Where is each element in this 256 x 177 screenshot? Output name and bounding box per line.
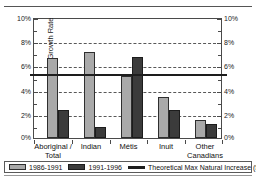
top-divider [4, 6, 252, 7]
ytick-right-6 [217, 67, 221, 68]
ytick-left-9 [34, 31, 37, 32]
ytick-left-6 [34, 67, 38, 68]
ytick-right-1 [218, 128, 221, 129]
ytick-left-10 [34, 19, 38, 20]
bottom-divider [4, 175, 252, 176]
bar-indian-1991-1996[interactable] [95, 127, 106, 139]
ytick-left-1 [34, 128, 37, 129]
bar-inuit-1991-1996[interactable] [169, 110, 180, 138]
bar-aboriginal-total-1986-1991[interactable] [47, 58, 58, 138]
bar-other-canadians-1991-1996[interactable] [206, 124, 217, 139]
bar-group-metis [121, 57, 143, 138]
plot-area: 10% 8% 6% 4% 2% 0% 10% 8% 6% 4% 2% 0% To… [33, 18, 222, 139]
ylabel-left-0: 0% [6, 134, 31, 141]
bar-metis-1991-1996[interactable] [132, 57, 143, 138]
ytick-left-4 [34, 92, 38, 93]
bar-group-indian [84, 52, 106, 138]
ylabel-right-6: 6% [224, 63, 249, 70]
ytick-left-7 [34, 55, 37, 56]
ytick-left-8 [34, 43, 38, 44]
chart-screenshot: 10% 8% 6% 4% 2% 0% 10% 8% 6% 4% 2% 0% To… [0, 0, 256, 177]
bar-indian-1986-1991[interactable] [84, 52, 95, 138]
gridline-8pct [34, 43, 221, 44]
ylabel-left-10: 10% [6, 15, 31, 22]
ylabel-left-8: 8% [6, 39, 31, 46]
category-label-aboriginal-total: Aboriginal / Total [32, 142, 74, 160]
ytick-right-5 [218, 80, 221, 81]
ytick-left-3 [34, 104, 37, 105]
ytick-right-8 [217, 43, 221, 44]
ytick-right-2 [217, 116, 221, 117]
legend-label-1986-1991: 1986-1991 [29, 164, 62, 171]
chart-legend: 1986-1991 1991-1996 Theoretical Max Natu… [4, 161, 252, 173]
ytick-right-7 [218, 55, 221, 56]
ylabel-right-8: 8% [224, 39, 249, 46]
ylabel-right-4: 4% [224, 88, 249, 95]
ytick-right-9 [218, 31, 221, 32]
ylabel-right-10: 10% [224, 15, 249, 22]
category-label-metis: Métis [108, 142, 150, 151]
legend-swatch-1986-1991 [9, 164, 26, 170]
threshold-line-natural-increase [30, 74, 227, 76]
ylabel-right-2: 2% [224, 112, 249, 119]
legend-label-1991-1996: 1991-1996 [88, 164, 121, 171]
ytick-right-3 [218, 104, 221, 105]
ytick-left-5 [34, 80, 37, 81]
ylabel-left-4: 4% [6, 88, 31, 95]
legend-swatch-1991-1996 [68, 164, 85, 170]
bar-group-inuit [158, 97, 180, 138]
ytick-left-2 [34, 116, 38, 117]
ylabel-left-2: 2% [6, 112, 31, 119]
ytick-right-4 [217, 92, 221, 93]
legend-swatch-threshold-line [128, 166, 145, 169]
bar-aboriginal-total-1991-1996[interactable] [58, 110, 69, 138]
bar-metis-1986-1991[interactable] [121, 76, 132, 138]
legend-label-threshold: Theoretical Max Natural Increase (5.5%) [148, 164, 256, 171]
category-label-indian: Indian [70, 142, 112, 151]
ylabel-right-0: 0% [224, 134, 249, 141]
bar-inuit-1986-1991[interactable] [158, 97, 169, 138]
ylabel-left-6: 6% [6, 63, 31, 70]
bar-group-other-canadians [195, 120, 217, 138]
category-label-other-canadians: Other Canadians [183, 142, 227, 160]
category-label-inuit: Inuit [145, 142, 187, 151]
bar-group-aboriginal-total [47, 58, 69, 138]
ytick-right-10 [217, 19, 221, 20]
bar-other-canadians-1986-1991[interactable] [195, 120, 206, 138]
